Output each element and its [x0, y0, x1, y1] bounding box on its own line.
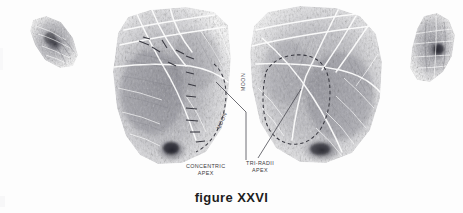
figure-plate: MOON MOON CONCENTRIC APEX TRI-RADII APEX… [0, 0, 463, 213]
concentric-apex-label-line1: CONCENTRIC [186, 163, 225, 170]
right-thumb-print [410, 13, 455, 82]
print-imagery-layer [0, 0, 463, 213]
left-thumb-print [30, 16, 78, 68]
scan-edge-artifact [0, 48, 5, 207]
figure-caption: figure XXVI [0, 190, 463, 205]
tri-radii-apex-label-line1: TRI-RADII [246, 160, 274, 167]
left-palm-print [113, 7, 231, 164]
moon-label-right: MOON [240, 73, 246, 91]
tri-radii-apex-label: TRI-RADII APEX [246, 160, 274, 173]
concentric-apex-label: CONCENTRIC APEX [186, 163, 225, 176]
tri-radii-apex-label-line2: APEX [246, 167, 274, 174]
concentric-apex-label-line2: APEX [186, 170, 225, 177]
